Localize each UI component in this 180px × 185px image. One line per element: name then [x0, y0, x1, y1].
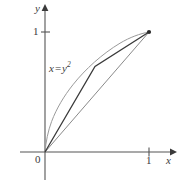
- curve-label-exponent: 2: [67, 60, 71, 69]
- x-axis-label: x: [166, 155, 171, 166]
- plot-canvas: [0, 0, 180, 185]
- curve-equation-label: x=y2: [49, 61, 71, 74]
- x-tick-label-1: 1: [146, 155, 152, 166]
- y-axis-label: y: [35, 3, 40, 14]
- curve-label-equals: =: [54, 62, 62, 74]
- endpoint-marker: [147, 30, 151, 34]
- y-tick-label-1: 1: [33, 26, 39, 37]
- origin-label: 0: [35, 154, 41, 165]
- chord-line: [45, 32, 149, 152]
- x-axis-arrowhead: [170, 149, 177, 156]
- parabola-arc-length-figure: y x 1 1 0 x=y2: [0, 0, 180, 185]
- y-axis-arrowhead: [42, 4, 49, 11]
